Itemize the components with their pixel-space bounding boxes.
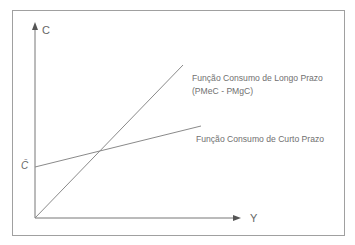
long-run-curve-sublabel: (PMeC - PMgC)	[192, 87, 253, 96]
y-axis-label: C	[42, 25, 50, 36]
consumption-diagram	[0, 0, 355, 245]
x-axis-arrow-icon	[233, 215, 241, 221]
y-axis-arrow-icon	[32, 22, 38, 30]
long-run-consumption-line	[35, 65, 183, 218]
autonomous-consumption-label: C̄	[21, 161, 28, 171]
short-run-curve-label: Função Consumo de Curto Prazo	[196, 135, 324, 144]
long-run-curve-label: Função Consumo de Longo Prazo	[192, 74, 323, 83]
diagram-frame	[13, 11, 345, 236]
x-axis-label: Y	[250, 213, 257, 224]
